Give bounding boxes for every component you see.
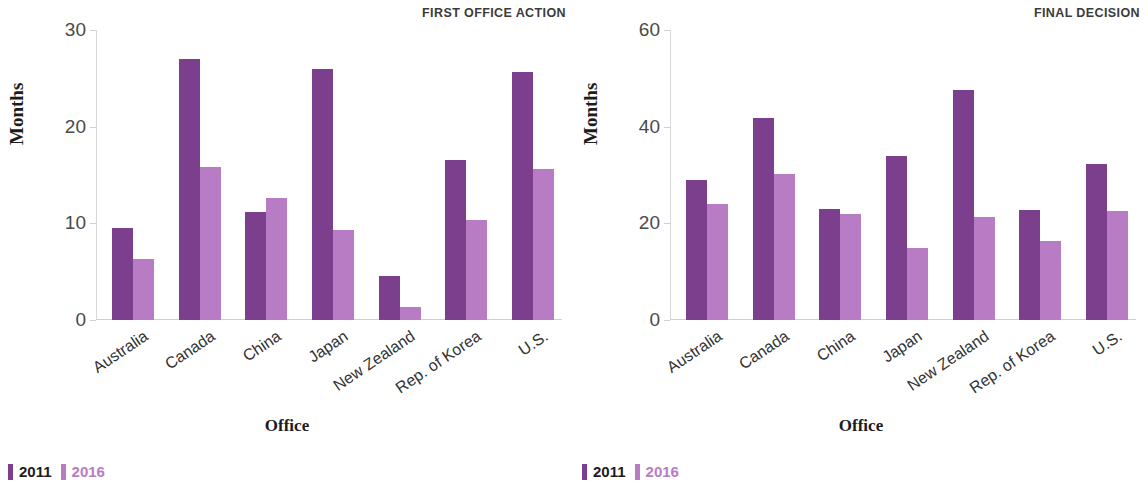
bar-group (445, 30, 487, 320)
bar-2016[interactable] (533, 169, 554, 320)
x-axis-category-text: China (814, 326, 860, 365)
bar-2011[interactable] (953, 90, 974, 320)
x-axis-category-text: Canada (736, 326, 794, 373)
bar-2011[interactable] (686, 180, 707, 320)
bar-2011[interactable] (445, 160, 466, 320)
chart-panel-final-decision: FINAL DECISION Months 0204060AustraliaCa… (574, 0, 1148, 486)
bar-2016[interactable] (774, 174, 795, 320)
legend-label: 2016 (72, 463, 105, 480)
bar-2016[interactable] (707, 204, 728, 320)
bar-2011[interactable] (1019, 210, 1040, 320)
bar-2011[interactable] (379, 276, 400, 320)
legend: 20112016 (582, 463, 679, 480)
x-axis-category-text: Japan (305, 326, 353, 366)
bar-2016[interactable] (466, 220, 487, 320)
legend-swatch-icon (582, 464, 587, 480)
plot-area: 0102030AustraliaCanadaChinaJapanNew Zeal… (96, 30, 562, 320)
y-axis-label: Months (580, 83, 602, 145)
x-axis-category-text: Australia (90, 326, 153, 377)
y-axis-tick-label: 20 (65, 116, 86, 138)
bar-group (112, 30, 154, 320)
bar-2016[interactable] (266, 198, 287, 320)
bar-2016[interactable] (333, 230, 354, 320)
bar-group (886, 30, 928, 320)
bar-group (819, 30, 861, 320)
legend-label: 2011 (593, 463, 626, 480)
bar-group (379, 30, 421, 320)
legend-swatch-icon (61, 464, 66, 480)
legend: 20112016 (8, 463, 105, 480)
legend-label: 2011 (19, 463, 52, 480)
bar-2016[interactable] (974, 217, 995, 320)
bar-group (753, 30, 795, 320)
bar-2011[interactable] (512, 72, 533, 320)
bar-2011[interactable] (179, 59, 200, 320)
y-axis-tick-label: 60 (639, 19, 660, 41)
y-axis-tick-mark (90, 223, 96, 224)
y-axis-tick-mark (90, 320, 96, 321)
x-axis-label: Office (0, 416, 574, 436)
bar-2016[interactable] (840, 214, 861, 320)
y-axis-tick-label: 0 (75, 309, 86, 331)
bar-2011[interactable] (1086, 164, 1107, 320)
figure-two-bar-charts: FIRST OFFICE ACTION Months 0102030Austra… (0, 0, 1148, 486)
bar-group (1019, 30, 1061, 320)
x-axis-category-text: Australia (664, 326, 727, 377)
chart-title: FIRST OFFICE ACTION (422, 6, 566, 20)
bar-2011[interactable] (312, 69, 333, 320)
y-axis-tick-label: 0 (649, 309, 660, 331)
bar-group (179, 30, 221, 320)
legend-label: 2016 (646, 463, 679, 480)
chart-panel-first-office-action: FIRST OFFICE ACTION Months 0102030Austra… (0, 0, 574, 486)
bar-2016[interactable] (1107, 211, 1128, 320)
bar-2011[interactable] (886, 156, 907, 320)
bar-group (953, 30, 995, 320)
bar-group (686, 30, 728, 320)
legend-item-2016[interactable]: 2016 (635, 463, 679, 480)
bar-2011[interactable] (819, 209, 840, 320)
y-axis-tick-label: 10 (65, 212, 86, 234)
y-axis-label: Months (6, 83, 28, 145)
bar-2011[interactable] (112, 228, 133, 320)
chart-title: FINAL DECISION (1034, 6, 1140, 20)
bar-group (512, 30, 554, 320)
y-axis-tick-label: 30 (65, 19, 86, 41)
y-axis-tick-mark (664, 127, 670, 128)
legend-swatch-icon (635, 464, 640, 480)
bar-2016[interactable] (1040, 241, 1061, 320)
plot-area: 0204060AustraliaCanadaChinaJapanNew Zeal… (670, 30, 1136, 320)
y-axis-tick-mark (664, 30, 670, 31)
bar-2011[interactable] (753, 118, 774, 320)
bar-2016[interactable] (400, 307, 421, 320)
y-axis-tick-label: 40 (639, 116, 660, 138)
y-axis-tick-mark (664, 320, 670, 321)
y-axis-line (670, 30, 671, 320)
legend-item-2016[interactable]: 2016 (61, 463, 105, 480)
x-axis-category-text: U.S. (515, 326, 553, 359)
bar-group (245, 30, 287, 320)
bar-2016[interactable] (907, 248, 928, 321)
y-axis-tick-label: 20 (639, 212, 660, 234)
y-axis-tick-mark (90, 30, 96, 31)
x-axis-category-text: Canada (162, 326, 220, 373)
y-axis-tick-mark (90, 127, 96, 128)
x-axis-label: Office (574, 416, 1148, 436)
bar-2016[interactable] (133, 259, 154, 320)
x-axis-category-text: China (240, 326, 286, 365)
bar-group (1086, 30, 1128, 320)
x-axis-category-text: U.S. (1089, 326, 1127, 359)
legend-swatch-icon (8, 464, 13, 480)
bar-2016[interactable] (200, 167, 221, 320)
y-axis-line (96, 30, 97, 320)
x-axis-category-text: Japan (879, 326, 927, 366)
bar-group (312, 30, 354, 320)
bar-2011[interactable] (245, 212, 266, 320)
legend-item-2011[interactable]: 2011 (582, 463, 626, 480)
y-axis-tick-mark (664, 223, 670, 224)
legend-item-2011[interactable]: 2011 (8, 463, 52, 480)
